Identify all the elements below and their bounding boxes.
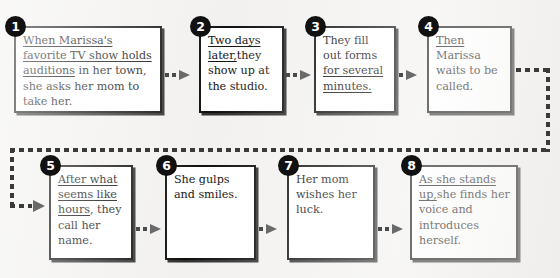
route-4-to-5-arrowhead-icon [33,200,45,212]
connector-6-to-7 [259,224,284,233]
flow-step-3-underlined: for several minutes. [323,64,383,92]
flow-step-8-text: As she stands up,she finds her voice and… [419,172,512,248]
connector-7-to-8 [378,224,406,233]
connector-dot [143,227,147,231]
connector-5-to-6 [136,224,162,233]
arrowhead-icon [392,224,403,234]
flow-step-7-text: Her mom wishes her luck. [296,172,369,218]
arrowhead-icon [406,70,417,80]
flow-step-1: When Marissa's favorite TV show holds au… [14,26,162,113]
connector-dot [385,227,389,231]
route-4-to-5-bottom-left [10,148,548,152]
connector-dot [165,73,169,77]
flow-step-6-badge: 6 [156,155,177,176]
route-4-to-5-right-down [546,68,550,152]
connector-dot [172,73,176,77]
route-4-to-5-left-down [10,148,14,206]
flow-step-4-badge: 4 [418,16,439,37]
flow-step-2-badge: 2 [190,16,211,37]
route-4-to-5-top-right [516,68,550,72]
connector-dot [286,73,290,77]
flow-step-4: Then Marissa waits to be called. [427,26,512,113]
connector-1-to-2 [165,70,193,79]
flow-step-3-text: They fill out forms for several minutes. [323,33,390,94]
route-4-to-5-enter [10,204,32,208]
arrowhead-icon [150,224,161,234]
flow-step-6-rest: She gulps and smiles. [174,173,237,201]
flow-step-4-text: Then Marissa waits to be called. [436,33,506,94]
arrowhead-icon [266,224,277,234]
flow-step-4-rest: Marissa waits to be called. [436,49,498,92]
arrowhead-icon [300,70,311,80]
flow-step-8-badge: 8 [401,155,422,176]
flowchart-canvas: When Marissa's favorite TV show holds au… [0,0,560,278]
connector-dot [399,73,403,77]
flow-step-2-text: Two days later,they show up at the studi… [208,33,278,94]
flow-step-7: Her mom wishes her luck. [287,165,375,260]
flow-step-3-leading: They fill out forms [323,34,377,62]
flow-step-7-rest: Her mom wishes her luck. [296,173,357,216]
flow-step-5-badge: 5 [40,155,61,176]
arrowhead-icon [179,70,190,80]
flow-step-1-badge: 1 [5,16,26,37]
flow-step-4-underlined: Then [436,34,464,47]
flow-step-3-badge: 3 [305,16,326,37]
flow-step-1-text: When Marissa's favorite TV show holds au… [23,33,156,109]
connector-2-to-3 [286,70,312,79]
connector-dot [293,73,297,77]
flow-step-8: As she stands up,she finds her voice and… [410,165,518,260]
flow-step-2: Two days later,they show up at the studi… [199,26,284,113]
connector-3-to-4 [399,70,424,79]
flow-step-6-text: She gulps and smiles. [174,172,250,202]
flow-step-5: After what seems like hours, they call h… [49,165,133,260]
flow-step-3: They fill out forms for several minutes. [314,26,396,113]
flow-step-7-badge: 7 [278,155,299,176]
connector-dot [378,227,382,231]
flow-step-6: She gulps and smiles. [165,165,256,260]
connector-dot [136,227,140,231]
connector-dot [259,227,263,231]
flow-step-5-text: After what seems like hours, they call h… [58,172,127,248]
